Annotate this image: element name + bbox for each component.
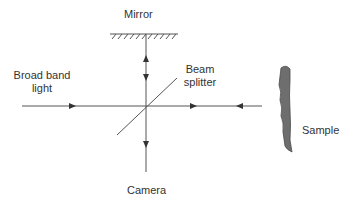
arrow-down-icon: [143, 74, 149, 81]
mirror-label: Mirror: [124, 8, 153, 21]
vertical-beam: [143, 34, 149, 172]
beam-splitter-label-line1: Beam: [180, 63, 220, 76]
arrow-up-icon: [143, 55, 149, 62]
horizontal-beam: [22, 103, 262, 109]
beam-splitter-label: Beam splitter: [180, 63, 220, 89]
source-label-line2: light: [11, 82, 73, 95]
arrow-right-icon: [69, 103, 76, 109]
source-label-line1: Broad band: [11, 69, 73, 82]
sample-shape: [279, 66, 292, 152]
sample-label: Sample: [302, 124, 339, 137]
arrow-down-icon: [143, 141, 149, 148]
source-label: Broad band light: [11, 69, 73, 95]
mirror: [110, 34, 178, 39]
arrow-right-icon: [190, 103, 197, 109]
camera-label: Camera: [127, 184, 166, 197]
beam-splitter-label-line2: splitter: [180, 76, 220, 89]
arrow-left-icon: [236, 103, 243, 109]
interferometer-diagram: [0, 0, 353, 202]
